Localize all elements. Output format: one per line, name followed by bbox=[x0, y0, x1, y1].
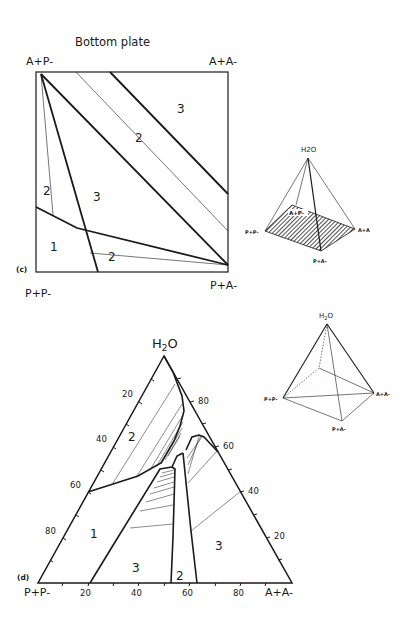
right-tick-label: 60 bbox=[223, 441, 234, 451]
inset-vertex-label: P+P- bbox=[245, 229, 259, 235]
left-tick-label: 60 bbox=[70, 480, 81, 490]
panel-d-label: (d) bbox=[17, 573, 29, 582]
inset-vertex-label: P+P- bbox=[264, 396, 278, 402]
left-tick-label: 80 bbox=[45, 526, 56, 536]
tick-labels: 20 40 60 80 80 60 40 20 20 40 60 80 bbox=[45, 389, 285, 598]
inset-vertex-label: A+A- bbox=[376, 391, 390, 397]
inset-tetrahedron-d: H2O P+P- A+A- P+A- bbox=[264, 312, 390, 432]
region-label: 3 bbox=[177, 102, 185, 116]
axis-ticks bbox=[50, 378, 282, 586]
region-label: 1 bbox=[50, 240, 58, 254]
ternary-triangle bbox=[38, 356, 292, 583]
apex-label: H2O bbox=[152, 336, 178, 353]
corner-label-bottom-left: P+P- bbox=[25, 287, 51, 300]
corner-label-top-right: A+A- bbox=[209, 55, 237, 68]
region-label: 2 bbox=[128, 430, 136, 444]
inset-vertex-label: P+A- bbox=[313, 258, 327, 264]
inset-apex-label: H2O bbox=[301, 146, 317, 154]
phase-boundaries bbox=[88, 356, 218, 583]
bottom-tick-label: 80 bbox=[233, 588, 244, 598]
right-tick-label: 40 bbox=[248, 486, 259, 496]
region-label: 2 bbox=[108, 250, 116, 264]
panel-c: Bottom plate A+P- A+A- P+P- P+A- (c) 3 2… bbox=[16, 35, 370, 300]
left-tick-label: 20 bbox=[122, 389, 133, 399]
left-tick-label: 40 bbox=[96, 434, 107, 444]
bottom-tick-label: 60 bbox=[182, 588, 193, 598]
bottom-tick-label: 40 bbox=[131, 588, 142, 598]
panel-d: H2O P+P- A+A- (d) 20 40 60 80 bbox=[17, 312, 390, 599]
region-label: 2 bbox=[135, 131, 143, 145]
region-label: 1 bbox=[90, 527, 98, 541]
corner-label-bottom-right: P+A- bbox=[210, 279, 237, 292]
region-label: 2 bbox=[176, 569, 184, 583]
region-label: 2 bbox=[43, 184, 51, 198]
inset-pyramid-c: H2O A+P- P+P- A+A P+A- bbox=[245, 146, 370, 264]
inset-apex-label: H2O bbox=[319, 312, 333, 321]
corner-label-top-left: A+P- bbox=[26, 55, 53, 68]
inset-vertex-label: A+A bbox=[358, 227, 370, 233]
right-tick-label: 20 bbox=[274, 531, 285, 541]
inset-vertex-label: P+A- bbox=[332, 426, 346, 432]
panel-c-title: Bottom plate bbox=[75, 35, 150, 49]
phase-boundaries bbox=[36, 72, 228, 272]
panel-c-label: (c) bbox=[16, 265, 27, 274]
figure-canvas: Bottom plate A+P- A+A- P+P- P+A- (c) 3 2… bbox=[0, 0, 408, 626]
right-tick-label: 80 bbox=[198, 396, 209, 406]
corner-label-bottom-right: A+A- bbox=[265, 586, 293, 599]
region-label: 3 bbox=[93, 190, 101, 204]
inset-vertex-label: A+P- bbox=[289, 210, 304, 216]
region-label: 3 bbox=[132, 561, 140, 575]
region-label: 3 bbox=[215, 539, 223, 553]
bottom-tick-label: 20 bbox=[80, 588, 91, 598]
corner-label-bottom-left: P+P- bbox=[24, 586, 50, 599]
